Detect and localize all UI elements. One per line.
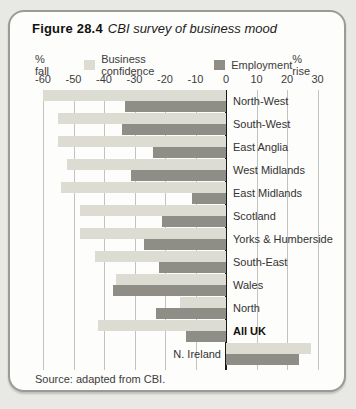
region-label: North (233, 302, 260, 314)
chart-row-yorks-humberside: Yorks & Humberside (43, 228, 324, 251)
employment-bar (131, 170, 226, 181)
business-confidence-bar (226, 343, 311, 354)
axis-tick-label-30: 30 (311, 73, 323, 85)
region-label: South-East (233, 256, 287, 268)
employment-bar (156, 308, 226, 319)
region-label: South-West (233, 118, 290, 130)
business-confidence-bar (58, 113, 226, 124)
axis-tick-label--10: -10 (188, 73, 204, 85)
region-label: West Midlands (233, 164, 305, 176)
region-label: Wales (233, 279, 263, 291)
figure-caption: CBI survey of business mood (108, 21, 277, 36)
business-confidence-bar (58, 136, 226, 147)
figure-panel: Figure 28.4CBI survey of business mood %… (8, 10, 346, 392)
chart-row-south-east: South-East (43, 251, 324, 274)
axis-tick-label-20: 20 (281, 73, 293, 85)
employment-bar (144, 239, 226, 250)
axis-tick-label--30: -30 (127, 73, 143, 85)
employment-bar (153, 147, 226, 158)
chart-row-east-anglia: East Anglia (43, 136, 324, 159)
chart-row-all-uk: All UK (43, 320, 324, 343)
employment-bar (226, 354, 299, 365)
employment-bar (113, 285, 226, 296)
chart-row-east-midlands: East Midlands (43, 182, 324, 205)
figure-title: Figure 28.4CBI survey of business mood (32, 21, 277, 36)
business-confidence-bar (67, 159, 226, 170)
employment-bar (122, 124, 226, 135)
region-label: East Anglia (233, 141, 288, 153)
axis-tick-label--40: -40 (96, 73, 112, 85)
legend: % fall Business confidence Employment % … (35, 59, 322, 71)
legend-label-employment: Employment (231, 59, 292, 71)
region-label: Scotland (233, 210, 276, 222)
employment-bar (186, 331, 226, 342)
business-confidence-bar (61, 182, 226, 193)
chart-row-n-ireland: N. Ireland (43, 343, 324, 366)
business-confidence-bar (95, 251, 226, 262)
chart-row-scotland: Scotland (43, 205, 324, 228)
region-label: Yorks & Humberside (233, 233, 333, 245)
business-confidence-bar (116, 274, 226, 285)
chart-row-north: North (43, 297, 324, 320)
axis-tick-label-0: 0 (223, 73, 229, 85)
axis-tick-label--50: -50 (66, 73, 82, 85)
axis-tick-label-10: 10 (250, 73, 262, 85)
business-confidence-bar (43, 90, 226, 101)
business-confidence-bar (98, 320, 226, 331)
chart-row-north-west: North-West (43, 90, 324, 113)
legend-swatch-business-confidence (84, 60, 95, 70)
plot-area: North-WestSouth-WestEast AngliaWest Midl… (43, 90, 324, 370)
axis-tick-label--60: -60 (35, 73, 51, 85)
chart-row-wales: Wales (43, 274, 324, 297)
business-confidence-bar (80, 205, 226, 216)
chart-row-south-west: South-West (43, 113, 324, 136)
employment-bar (192, 193, 226, 204)
legend-swatch-employment (214, 60, 225, 70)
employment-bar (125, 101, 226, 112)
chart-row-west-midlands: West Midlands (43, 159, 324, 182)
region-label: East Midlands (233, 187, 302, 199)
source-note: Source: adapted from CBI. (35, 373, 165, 385)
region-label: N. Ireland (173, 348, 221, 360)
region-label: All UK (233, 325, 266, 337)
business-confidence-bar (180, 297, 226, 308)
employment-bar (159, 262, 226, 273)
figure-number: Figure 28.4 (32, 21, 103, 36)
employment-bar (162, 216, 226, 227)
region-label: North-West (233, 95, 288, 107)
x-axis: -60-50-40-30-20-100102030 (43, 73, 324, 86)
axis-tick-label--20: -20 (157, 73, 173, 85)
business-confidence-bar (80, 228, 226, 239)
